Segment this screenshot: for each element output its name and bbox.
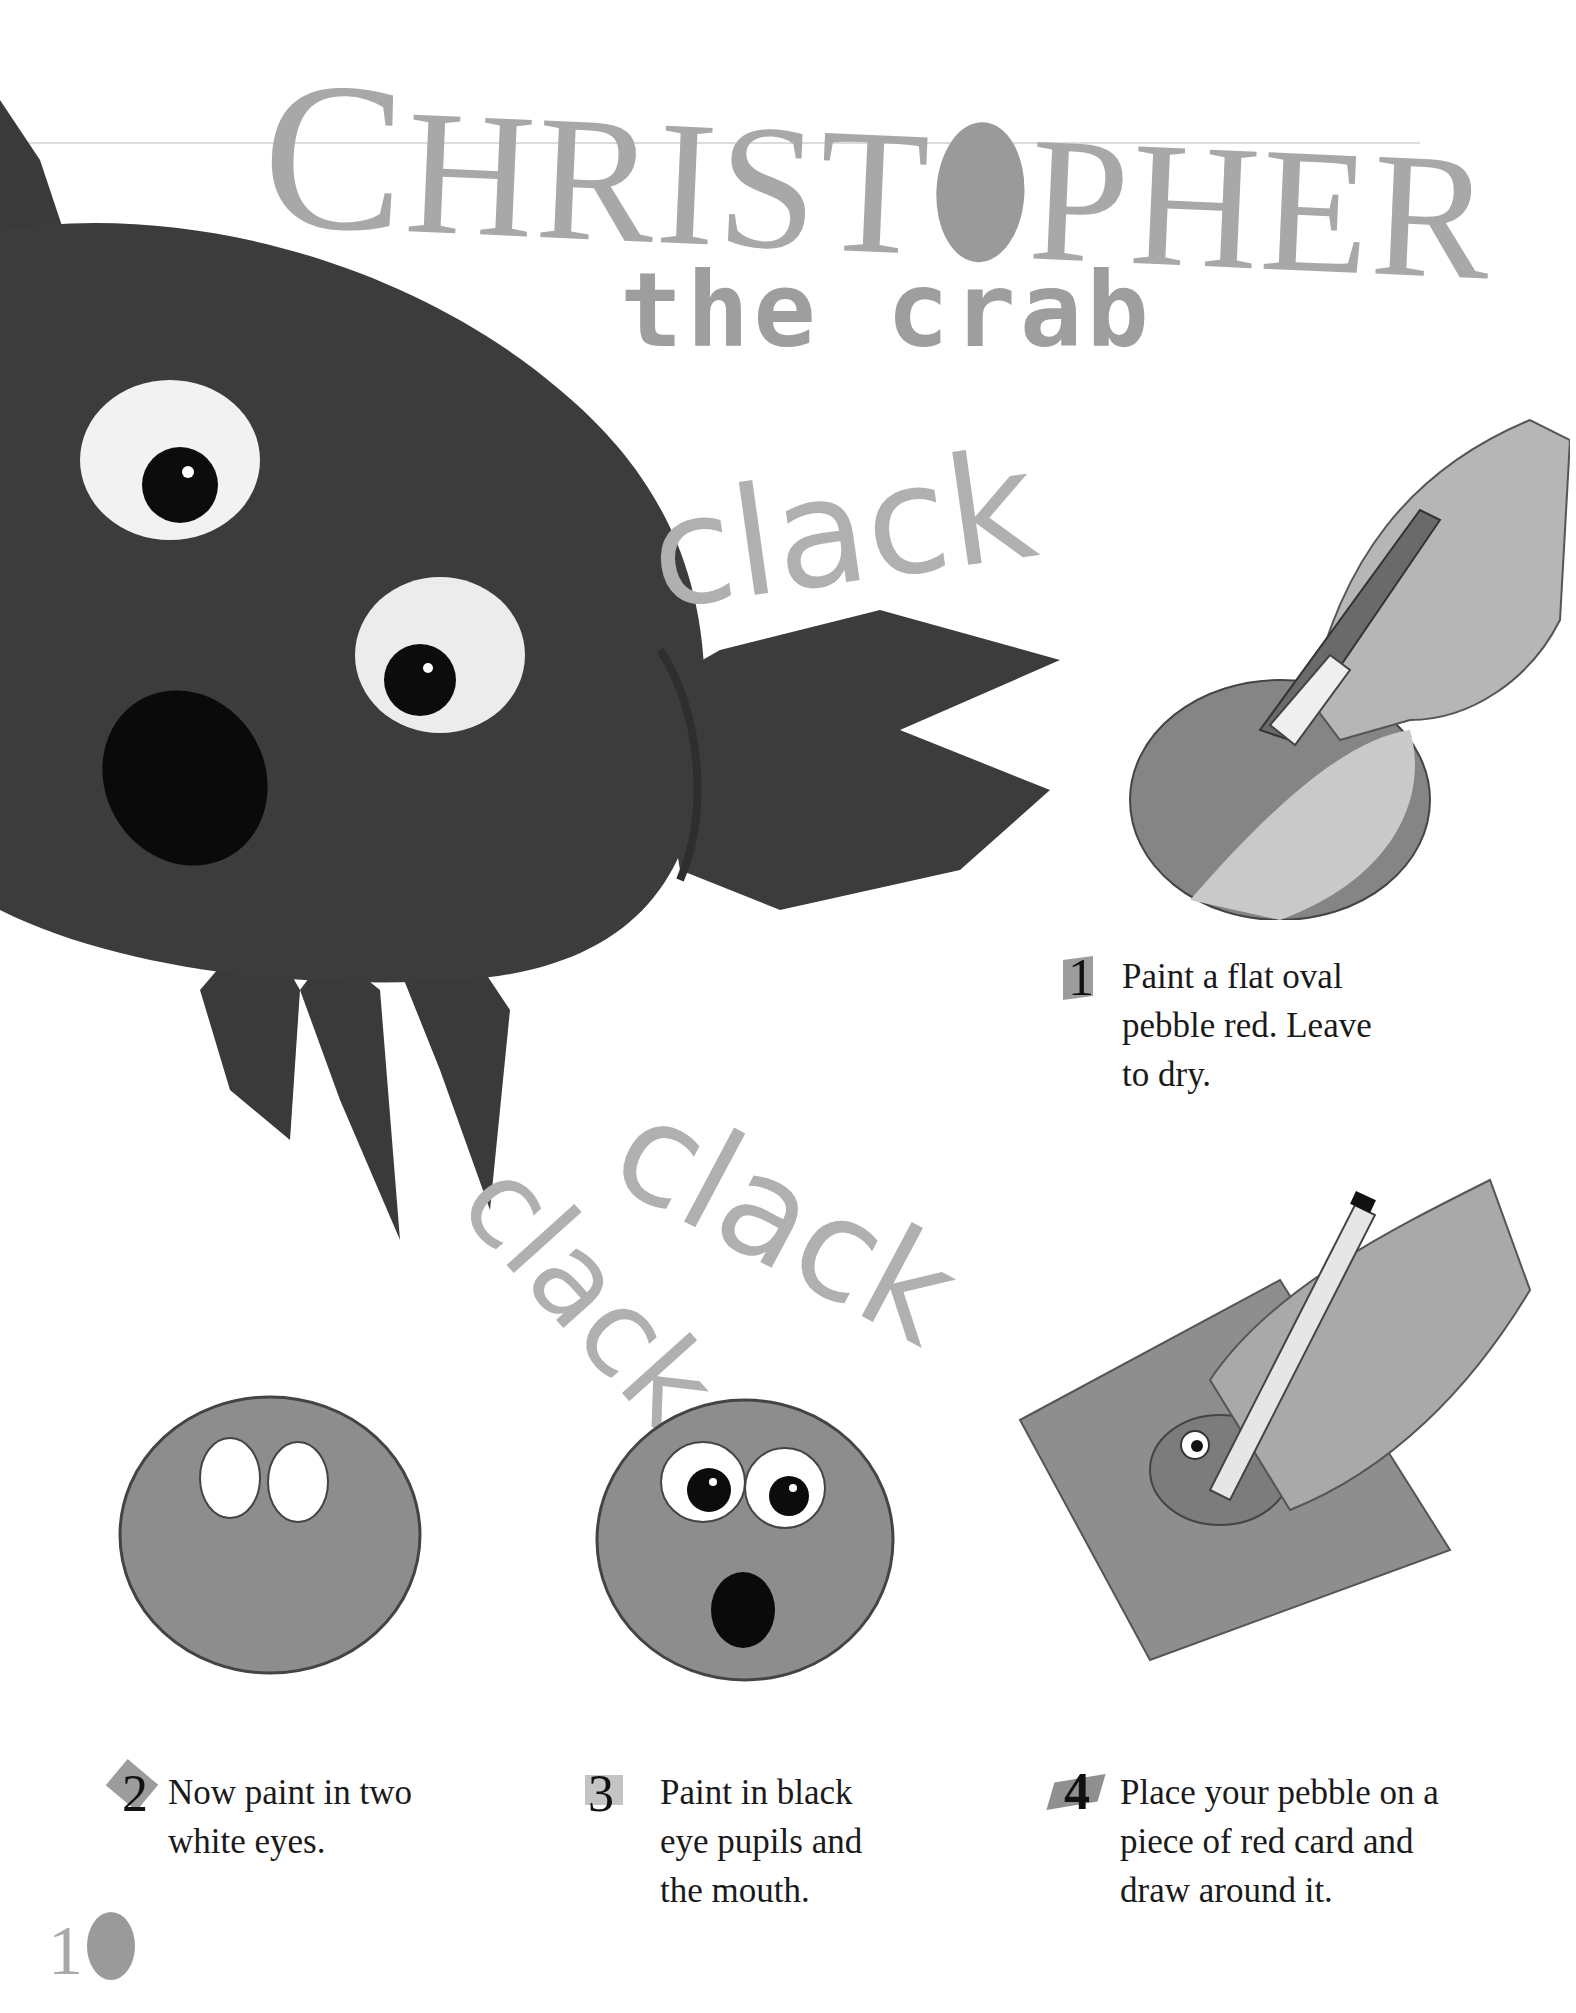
step-3-illustration	[585, 1390, 915, 1690]
step-3-text: Paint in black eye pupils and the mouth.	[660, 1768, 862, 1915]
step-4-illustration	[1010, 1170, 1576, 1670]
step-4-number: 4	[1064, 1766, 1090, 1818]
step-3-number: 3	[588, 1768, 614, 1820]
step-4-text: Place your pebble on a piece of red card…	[1120, 1768, 1439, 1915]
step-2-illustration	[110, 1390, 430, 1680]
step-2-number: 2	[122, 1768, 148, 1820]
step-1-text: Paint a flat oval pebble red. Leave to d…	[1122, 952, 1372, 1099]
step-2-text: Now paint in two white eyes.	[168, 1768, 412, 1866]
step-1-number: 1	[1068, 952, 1094, 1004]
page-number: 1	[48, 1912, 135, 1986]
step-1-illustration	[1110, 400, 1570, 920]
page-number-circle	[87, 1912, 135, 1980]
